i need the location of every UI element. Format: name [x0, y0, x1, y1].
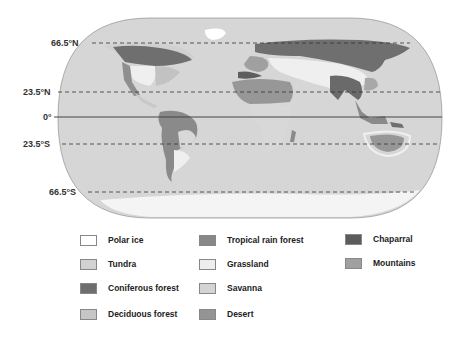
- swatch-grassland: [199, 259, 216, 270]
- latitude-label-equator: 0°: [43, 112, 52, 122]
- legend-item-savanna: Savanna: [199, 281, 262, 295]
- latitude-label-66N: 66.5°N: [51, 38, 79, 48]
- legend-item-coniferous-forest: Coniferous forest: [80, 281, 179, 295]
- swatch-tundra: [80, 259, 97, 270]
- legend-item-mountains: Mountains: [345, 256, 416, 270]
- legend-item-deciduous-forest: Deciduous forest: [80, 307, 177, 321]
- latitude-label-23N: 23.5°N: [23, 87, 51, 97]
- legend-item-tropical-rain-forest: Tropical rain forest: [199, 233, 304, 247]
- legend-item-desert: Desert: [199, 307, 253, 321]
- swatch-coniferous-forest: [80, 283, 97, 294]
- latitude-label-23S: 23.5°S: [23, 139, 50, 149]
- swatch-mountains: [345, 258, 362, 269]
- legend-item-chaparral: Chaparral: [345, 232, 413, 246]
- swatch-deciduous-forest: [80, 309, 97, 320]
- legend-item-polar-ice: Polar ice: [80, 233, 143, 247]
- legend-item-grassland: Grassland: [199, 257, 269, 271]
- swatch-desert: [199, 309, 216, 320]
- legend-item-tundra: Tundra: [80, 257, 136, 271]
- swatch-tropical-rain-forest: [199, 235, 216, 246]
- swatch-chaparral: [345, 234, 362, 245]
- swatch-savanna: [199, 283, 216, 294]
- latitude-label-66S: 66.5°S: [49, 187, 76, 197]
- swatch-polar-ice: [80, 235, 97, 246]
